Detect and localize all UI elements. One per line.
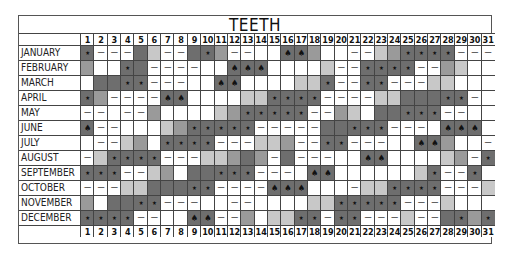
dash-icon: — [218, 183, 225, 192]
day-cell [107, 105, 121, 120]
day-cell: ★ [400, 45, 414, 60]
day-cell: ★ [347, 195, 361, 210]
dash-icon: — [445, 183, 452, 192]
dash-icon: — [351, 183, 358, 192]
dash-icon: — [458, 183, 465, 192]
day-cell: — [147, 90, 161, 105]
day-cell [173, 180, 187, 195]
dash-icon: — [445, 108, 452, 117]
day-cell: ★ [400, 180, 414, 195]
day-cell [454, 150, 468, 165]
day-cell [387, 105, 401, 120]
dash-icon: — [338, 93, 345, 102]
day-number: 25 [400, 225, 414, 237]
star-icon: ★ [192, 184, 197, 191]
dash-icon: — [84, 153, 91, 162]
day-cell: — [107, 90, 121, 105]
day-cell: ★ [400, 105, 414, 120]
day-cell [267, 135, 281, 150]
day-number: 9 [187, 33, 201, 45]
day-cell [387, 90, 401, 105]
dash-icon: — [324, 153, 331, 162]
month-label: OCTOBER [19, 180, 80, 195]
day-cell: — [133, 210, 147, 225]
day-number: 2 [93, 33, 107, 45]
day-cell: — [334, 75, 348, 90]
day-cell: — [227, 135, 241, 150]
day-cell: — [120, 45, 134, 60]
day-cell: ★ [414, 45, 428, 60]
month-label: MAY [19, 105, 80, 120]
star-icon: ★ [139, 199, 144, 206]
day-cell: ★ [481, 210, 495, 225]
dash-icon: — [471, 153, 478, 162]
day-cell [133, 135, 147, 150]
day-cell [93, 75, 107, 90]
day-cell: ★ [200, 135, 214, 150]
day-cell: — [360, 45, 374, 60]
day-cell: — [133, 105, 147, 120]
star-icon: ★ [179, 139, 184, 146]
dash-icon: — [298, 138, 305, 147]
dash-icon: — [178, 63, 185, 72]
day-cell: ★ [187, 135, 201, 150]
day-cell: ★ [107, 210, 121, 225]
day-cell: — [240, 195, 254, 210]
star-icon: ★ [379, 64, 384, 71]
day-cell [280, 150, 294, 165]
day-cell [147, 45, 161, 60]
day-cell [481, 60, 495, 75]
dash-icon: — [151, 93, 158, 102]
day-cell [467, 75, 481, 90]
day-cell [427, 120, 441, 135]
spade-icon: ♠ [284, 48, 291, 58]
star-icon: ★ [352, 214, 357, 221]
day-cell: ★ [400, 60, 414, 75]
dash-icon: — [244, 48, 251, 57]
day-cell: ♠ [227, 75, 241, 90]
day-cell: ★ [80, 165, 94, 180]
day-cell: — [467, 45, 481, 60]
day-cell [200, 90, 214, 105]
day-cell: — [307, 150, 321, 165]
star-icon: ★ [406, 64, 411, 71]
day-cell: — [93, 135, 107, 150]
day-cell: — [440, 180, 454, 195]
day-cell: — [173, 75, 187, 90]
day-cell: ★ [240, 120, 254, 135]
day-number: 11 [214, 225, 228, 237]
dash-icon: — [351, 93, 358, 102]
star-icon: ★ [379, 79, 384, 86]
dash-icon: — [418, 63, 425, 72]
day-cell [214, 45, 228, 60]
day-cell: — [454, 180, 468, 195]
day-number: 7 [160, 225, 174, 237]
dash-icon: — [311, 123, 318, 132]
day-cell [400, 90, 414, 105]
dash-icon: — [351, 138, 358, 147]
day-cell [173, 120, 187, 135]
day-cell [360, 180, 374, 195]
star-icon: ★ [125, 64, 130, 71]
day-number: 17 [294, 33, 308, 45]
day-cell: — [254, 120, 268, 135]
star-icon: ★ [366, 79, 371, 86]
day-number: 29 [454, 33, 468, 45]
day-cell: ♠ [80, 120, 94, 135]
day-cell [240, 150, 254, 165]
spade-icon: ♠ [324, 168, 331, 178]
day-number: 12 [227, 225, 241, 237]
day-cell: ★ [187, 180, 201, 195]
day-cell [467, 135, 481, 150]
dash-icon: — [231, 183, 238, 192]
dash-icon: — [231, 213, 238, 222]
day-cell [173, 165, 187, 180]
month-label: APRIL [19, 90, 80, 105]
day-cell: — [400, 75, 414, 90]
day-number: 3 [107, 33, 121, 45]
day-cell [107, 60, 121, 75]
day-cell: — [320, 90, 334, 105]
day-cell: ★ [133, 195, 147, 210]
day-cell: — [107, 135, 121, 150]
dash-icon: — [404, 78, 411, 87]
